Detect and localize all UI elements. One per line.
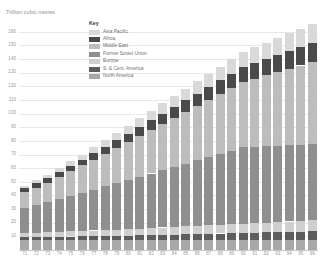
segment-asia-pacific	[20, 186, 29, 188]
segment-former-soviet-union	[296, 145, 305, 221]
bar-94[interactable]	[285, 25, 294, 250]
bar-92[interactable]	[262, 25, 271, 250]
chart-figure: Trillion cubic metres 102030405060708090…	[0, 0, 324, 279]
legend-item-africa[interactable]: Africa	[89, 36, 163, 43]
segment-former-soviet-union	[216, 154, 225, 225]
bar-93[interactable]	[273, 25, 282, 250]
segment-asia-pacific	[101, 140, 110, 147]
bar-95[interactable]	[296, 25, 305, 250]
segment-former-soviet-union	[43, 202, 52, 232]
x-axis-line	[19, 250, 318, 251]
segment-middle-east	[308, 62, 317, 144]
segment-africa	[147, 120, 156, 130]
y-axis-labels: 102030405060708090100110120130140150160	[0, 25, 16, 250]
bar-85[interactable]	[181, 25, 190, 250]
segment-north-america	[170, 240, 179, 250]
segment-north-america	[285, 240, 294, 250]
segment-africa	[308, 43, 317, 62]
segment-africa	[158, 114, 167, 124]
bar-71[interactable]	[20, 25, 29, 250]
x-axis-tick-label: 75	[65, 252, 77, 257]
segment-north-america	[262, 240, 271, 250]
segment-s-cent-america	[273, 232, 282, 240]
segment-s-cent-america	[158, 235, 167, 240]
segment-former-soviet-union	[262, 146, 271, 222]
segment-s-cent-america	[216, 234, 225, 240]
segment-europe	[273, 222, 282, 232]
x-axis-tick-label: 82	[146, 252, 158, 257]
segment-asia-pacific	[250, 47, 259, 63]
legend-swatch-icon	[89, 30, 100, 35]
legend-item-europe[interactable]: Europe	[89, 58, 163, 65]
segment-africa	[135, 127, 144, 136]
bar-87[interactable]	[204, 25, 213, 250]
segment-middle-east	[216, 94, 225, 154]
bar-75[interactable]	[66, 25, 75, 250]
segment-north-america	[181, 240, 190, 250]
segment-north-america	[158, 240, 167, 250]
segment-former-soviet-union	[170, 167, 179, 227]
segment-europe	[204, 225, 213, 233]
segment-middle-east	[158, 124, 167, 170]
segment-africa	[216, 80, 225, 94]
segment-middle-east	[147, 130, 156, 174]
bar-73[interactable]	[43, 25, 52, 250]
bar-90[interactable]	[239, 25, 248, 250]
segment-north-america	[55, 240, 64, 250]
legend-swatch-icon	[89, 44, 100, 49]
segment-africa	[273, 55, 282, 72]
segment-north-america	[308, 240, 317, 250]
segment-africa	[181, 100, 190, 112]
x-axis-tick-label: 72	[31, 252, 43, 257]
bar-91[interactable]	[250, 25, 259, 250]
segment-former-soviet-union	[250, 147, 259, 223]
legend-item-former-soviet-union[interactable]: Former Soviet Union	[89, 51, 163, 58]
x-axis-tick-label: 86	[192, 252, 204, 257]
segment-middle-east	[239, 82, 248, 147]
segment-asia-pacific	[112, 133, 121, 141]
segment-north-america	[147, 240, 156, 250]
segment-europe	[55, 232, 64, 237]
segment-former-soviet-union	[308, 144, 317, 220]
bar-74[interactable]	[55, 25, 64, 250]
segment-middle-east	[101, 154, 110, 187]
legend-title: Key	[89, 21, 163, 26]
bar-89[interactable]	[227, 25, 236, 250]
legend-item-s-cent-america[interactable]: S. & Cent. America	[89, 65, 163, 72]
segment-africa	[66, 166, 75, 171]
segment-africa	[55, 172, 64, 177]
segment-former-soviet-union	[193, 160, 202, 225]
segment-africa	[285, 51, 294, 69]
x-axis-tick-label: 94	[284, 252, 296, 257]
x-axis-tick-label: 88	[215, 252, 227, 257]
legend-item-label: Europe	[103, 59, 118, 64]
bar-72[interactable]	[32, 25, 41, 250]
bar-84[interactable]	[170, 25, 179, 250]
legend-swatch-icon	[89, 37, 100, 42]
segment-former-soviet-union	[112, 183, 121, 229]
segment-europe	[308, 220, 317, 231]
bar-96[interactable]	[308, 25, 317, 250]
segment-north-america	[239, 240, 248, 250]
bar-88[interactable]	[216, 25, 225, 250]
segment-africa	[112, 140, 121, 148]
segment-africa	[193, 94, 202, 106]
x-axis-tick-label: 90	[238, 252, 250, 257]
legend-item-label: S. & Cent. America	[103, 67, 144, 72]
segment-former-soviet-union	[227, 151, 236, 225]
segment-europe	[239, 224, 248, 233]
x-axis-tick-label: 76	[77, 252, 89, 257]
x-axis-tick-label: 93	[272, 252, 284, 257]
segment-s-cent-america	[32, 237, 41, 240]
segment-middle-east	[124, 142, 133, 180]
legend-item-middle-east[interactable]: Middle East	[89, 43, 163, 50]
segment-asia-pacific	[158, 103, 167, 113]
legend-item-north-america[interactable]: North America	[89, 73, 163, 80]
segment-middle-east	[296, 66, 305, 145]
x-axis-tick-label: 84	[169, 252, 181, 257]
segment-africa	[227, 74, 236, 88]
legend-item-asia-pacific[interactable]: Asia Pacific	[89, 28, 163, 35]
segment-europe	[158, 228, 167, 235]
bar-86[interactable]	[193, 25, 202, 250]
bar-76[interactable]	[78, 25, 87, 250]
